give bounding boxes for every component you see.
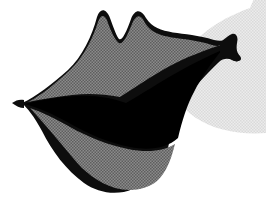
lips-illustration	[0, 0, 266, 209]
artwork-canvas: Lips Clip Art Illustration	[0, 0, 266, 209]
